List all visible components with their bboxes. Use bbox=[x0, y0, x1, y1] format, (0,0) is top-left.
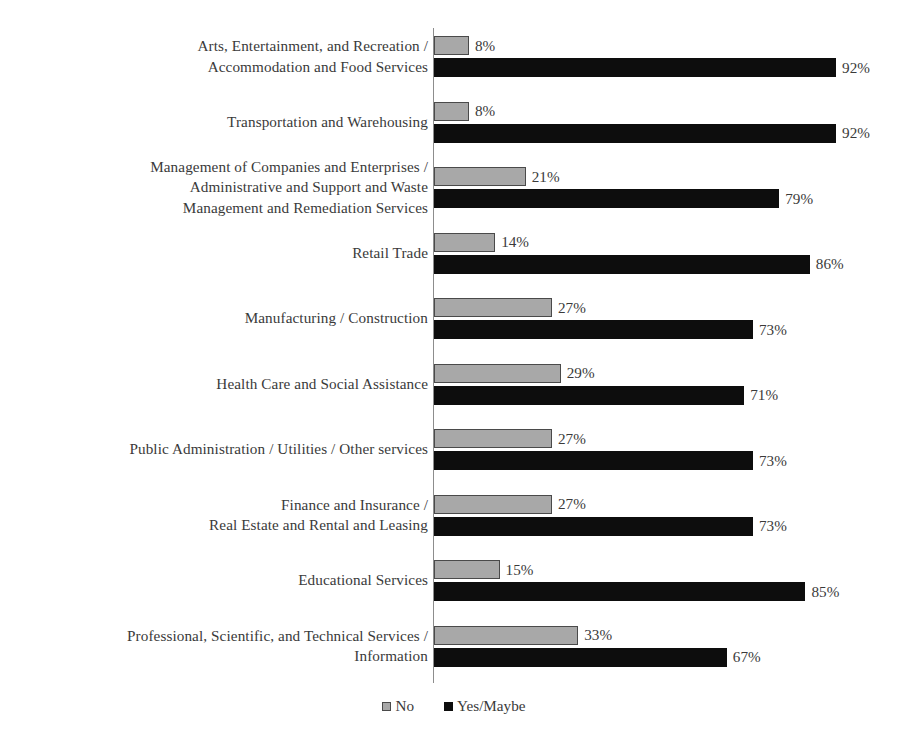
category-group: Professional, Scientific, and Technical … bbox=[0, 618, 908, 684]
bar-row: 73% bbox=[434, 451, 908, 470]
bar-value-label: 73% bbox=[759, 453, 787, 468]
category-group: Manufacturing / Construction27%73% bbox=[0, 290, 908, 356]
bar-row: 33% bbox=[434, 626, 908, 645]
bar-row: 27% bbox=[434, 298, 908, 317]
category-label: Retail Trade bbox=[28, 243, 428, 264]
bar-no[interactable] bbox=[434, 36, 469, 55]
bar-value-label: 21% bbox=[532, 169, 560, 184]
category-group: Public Administration / Utilities / Othe… bbox=[0, 421, 908, 487]
bar-value-label: 33% bbox=[584, 627, 612, 642]
bar-row: 86% bbox=[434, 255, 908, 274]
bar-value-label: 14% bbox=[501, 234, 529, 249]
horizontal-bar-chart: Arts, Entertainment, and Recreation / Ac… bbox=[0, 0, 908, 754]
category-group: Arts, Entertainment, and Recreation / Ac… bbox=[0, 28, 908, 94]
bar-value-label: 15% bbox=[506, 562, 534, 577]
bar-value-label: 67% bbox=[733, 649, 761, 664]
category-group: Health Care and Social Assistance29%71% bbox=[0, 356, 908, 422]
bar-value-label: 27% bbox=[558, 496, 586, 511]
category-label: Public Administration / Utilities / Othe… bbox=[28, 439, 428, 460]
category-label: Management of Companies and Enterprises … bbox=[28, 157, 428, 219]
category-group: Management of Companies and Enterprises … bbox=[0, 159, 908, 225]
bar-value-label: 73% bbox=[759, 518, 787, 533]
bar-value-label: 73% bbox=[759, 322, 787, 337]
legend-label-yes-maybe: Yes/Maybe bbox=[457, 697, 526, 715]
bar-no[interactable] bbox=[434, 167, 526, 186]
bar-value-label: 8% bbox=[475, 103, 495, 118]
bar-value-label: 71% bbox=[750, 387, 778, 402]
bar-no[interactable] bbox=[434, 429, 552, 448]
bar-row: 8% bbox=[434, 36, 908, 55]
bar-value-label: 86% bbox=[816, 256, 844, 271]
bar-yes-maybe[interactable] bbox=[434, 255, 810, 274]
bar-no[interactable] bbox=[434, 560, 500, 579]
bar-no[interactable] bbox=[434, 626, 578, 645]
bar-row: 92% bbox=[434, 124, 908, 143]
bar-row: 67% bbox=[434, 648, 908, 667]
bar-value-label: 27% bbox=[558, 431, 586, 446]
category-label: Arts, Entertainment, and Recreation / Ac… bbox=[28, 36, 428, 77]
category-group: Educational Services15%85% bbox=[0, 552, 908, 618]
category-group: Finance and Insurance / Real Estate and … bbox=[0, 487, 908, 553]
bar-row: 27% bbox=[434, 429, 908, 448]
bar-row: 79% bbox=[434, 189, 908, 208]
category-label: Educational Services bbox=[28, 570, 428, 591]
bar-no[interactable] bbox=[434, 298, 552, 317]
bar-value-label: 27% bbox=[558, 300, 586, 315]
bar-no[interactable] bbox=[434, 364, 561, 383]
chart-legend: No Yes/Maybe bbox=[0, 697, 908, 715]
bar-value-label: 92% bbox=[842, 60, 870, 75]
category-label: Transportation and Warehousing bbox=[28, 112, 428, 133]
bar-row: 21% bbox=[434, 167, 908, 186]
bar-yes-maybe[interactable] bbox=[434, 517, 753, 536]
legend-item-no[interactable]: No bbox=[382, 697, 414, 715]
bar-no[interactable] bbox=[434, 233, 495, 252]
bar-row: 85% bbox=[434, 582, 908, 601]
category-group: Transportation and Warehousing8%92% bbox=[0, 94, 908, 160]
bar-row: 73% bbox=[434, 517, 908, 536]
category-label: Finance and Insurance / Real Estate and … bbox=[28, 495, 428, 536]
bar-yes-maybe[interactable] bbox=[434, 124, 836, 143]
bar-row: 8% bbox=[434, 102, 908, 121]
bar-row: 27% bbox=[434, 495, 908, 514]
bar-yes-maybe[interactable] bbox=[434, 386, 744, 405]
gray-square-swatch-icon bbox=[382, 702, 391, 711]
bar-yes-maybe[interactable] bbox=[434, 648, 727, 667]
bar-value-label: 79% bbox=[785, 191, 813, 206]
category-label: Manufacturing / Construction bbox=[28, 308, 428, 329]
bar-yes-maybe[interactable] bbox=[434, 58, 836, 77]
bar-no[interactable] bbox=[434, 102, 469, 121]
bar-row: 15% bbox=[434, 560, 908, 579]
legend-label-no: No bbox=[395, 697, 414, 715]
bar-value-label: 8% bbox=[475, 38, 495, 53]
bar-row: 73% bbox=[434, 320, 908, 339]
legend-item-yes-maybe[interactable]: Yes/Maybe bbox=[444, 697, 526, 715]
bar-row: 92% bbox=[434, 58, 908, 77]
bar-yes-maybe[interactable] bbox=[434, 189, 779, 208]
category-label: Health Care and Social Assistance bbox=[28, 374, 428, 395]
category-group: Retail Trade14%86% bbox=[0, 225, 908, 291]
plot-area: Arts, Entertainment, and Recreation / Ac… bbox=[0, 0, 908, 700]
bar-yes-maybe[interactable] bbox=[434, 582, 805, 601]
bar-no[interactable] bbox=[434, 495, 552, 514]
bar-yes-maybe[interactable] bbox=[434, 320, 753, 339]
black-square-swatch-icon bbox=[444, 702, 453, 711]
bar-row: 14% bbox=[434, 233, 908, 252]
bar-row: 29% bbox=[434, 364, 908, 383]
bar-row: 71% bbox=[434, 386, 908, 405]
bar-value-label: 92% bbox=[842, 125, 870, 140]
bar-value-label: 29% bbox=[567, 365, 595, 380]
bar-yes-maybe[interactable] bbox=[434, 451, 753, 470]
bar-value-label: 85% bbox=[811, 584, 839, 599]
category-label: Professional, Scientific, and Technical … bbox=[28, 626, 428, 667]
